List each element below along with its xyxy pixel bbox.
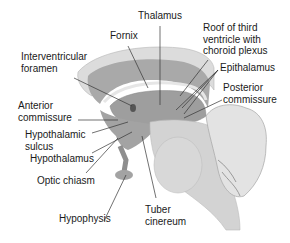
pons [154, 137, 202, 193]
label-thalamus: Thalamus [138, 10, 182, 22]
label-tuber-cinereum: Tuber cinereum [145, 204, 186, 227]
label-fornix: Fornix [110, 30, 138, 42]
label-roof-third-ventricle: Roof of third ventricle with choroid ple… [203, 22, 267, 57]
infundibulum [120, 146, 126, 172]
label-anterior-commissure: Anterior commissure [18, 100, 72, 123]
label-interventricular-foramen: Interventricular foramen [21, 51, 87, 74]
label-hypothalamus: Hypothalamus [30, 153, 94, 165]
diencephalon-diagram: Thalamus Fornix Roof of third ventricle … [0, 0, 290, 243]
label-epithalamus: Epithalamus [220, 62, 275, 74]
label-hypophysis: Hypophysis [59, 213, 111, 225]
label-hypothalamic-sulcus: Hypothalamic sulcus [25, 129, 86, 152]
label-optic-chiasm: Optic chiasm [37, 175, 95, 187]
label-posterior-commissure: Posterior commissure [223, 82, 277, 105]
